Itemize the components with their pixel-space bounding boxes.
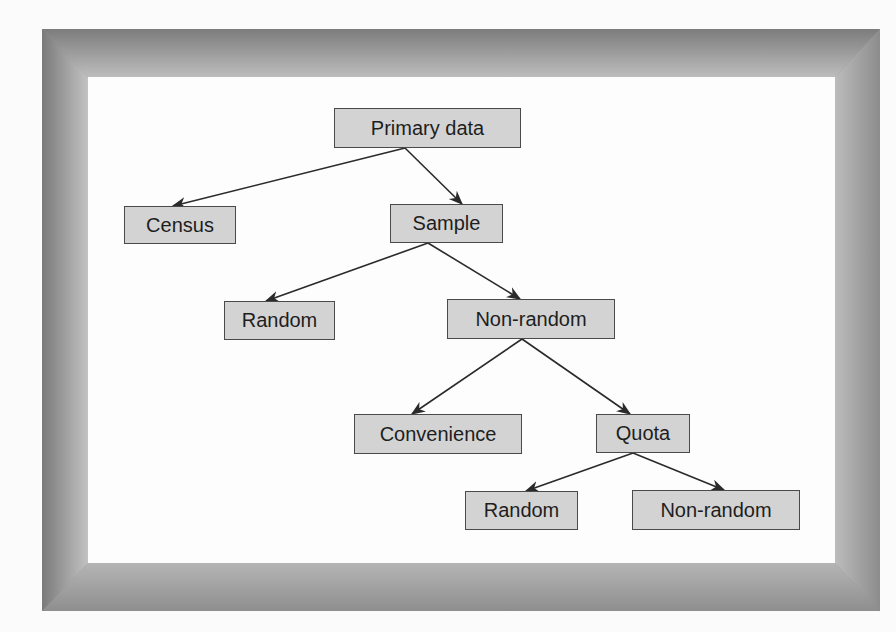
node-convenience[interactable]: Convenience xyxy=(354,414,522,454)
node-label: Non-random xyxy=(660,499,771,522)
frame-right-edge xyxy=(835,29,880,611)
frame-top-edge xyxy=(42,29,880,77)
node-label: Sample xyxy=(413,212,481,235)
node-label: Random xyxy=(484,499,560,522)
node-random[interactable]: Random xyxy=(224,301,335,340)
node-sample[interactable]: Sample xyxy=(390,204,503,243)
node-quota-non-random[interactable]: Non-random xyxy=(632,490,800,530)
node-label: Convenience xyxy=(380,423,497,446)
node-label: Non-random xyxy=(475,308,586,331)
node-label: Random xyxy=(242,309,318,332)
node-census[interactable]: Census xyxy=(124,206,236,244)
node-quota[interactable]: Quota xyxy=(596,414,690,453)
node-label: Primary data xyxy=(371,117,484,140)
frame-bottom-edge xyxy=(42,563,880,611)
node-primary-data[interactable]: Primary data xyxy=(334,108,521,148)
frame-left-edge xyxy=(42,29,88,611)
node-non-random[interactable]: Non-random xyxy=(447,299,615,339)
node-label: Census xyxy=(146,214,214,237)
node-quota-random[interactable]: Random xyxy=(465,491,578,530)
node-label: Quota xyxy=(616,422,670,445)
